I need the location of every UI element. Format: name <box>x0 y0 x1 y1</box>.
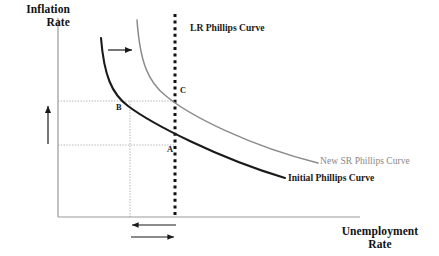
point-c-label: C <box>180 86 186 95</box>
new-sr-phillips-curve-path <box>137 20 318 163</box>
lr-phillips-curve-label: LR Phillips Curve <box>190 22 265 33</box>
point-a-label: A <box>167 145 173 154</box>
x-axis-title: Unemployment Rate <box>326 225 434 250</box>
point-b-label: B <box>116 103 122 112</box>
axes <box>58 18 360 217</box>
y-axis-title-line1: Inflation <box>2 3 70 16</box>
phillips-curve-diagram: Inflation Rate Unemployment Rate LR Phil… <box>0 0 439 256</box>
phillips-curve-plot <box>0 0 439 256</box>
y-axis-title-line2: Rate <box>2 16 70 29</box>
x-axis-title-line2: Rate <box>326 238 434 251</box>
initial-phillips-curve-label: Initial Phillips Curve <box>288 172 374 183</box>
initial-phillips-curve-path <box>101 38 285 178</box>
new-sr-phillips-curve-label: New SR Phillips Curve <box>320 155 410 166</box>
y-axis-title: Inflation Rate <box>2 3 70 28</box>
guide-lines <box>58 101 176 217</box>
x-axis-title-line1: Unemployment <box>326 225 434 238</box>
